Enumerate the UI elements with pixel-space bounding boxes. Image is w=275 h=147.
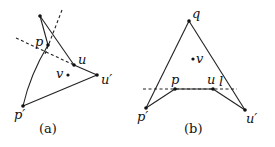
vertex-u-prime	[95, 73, 99, 77]
label-q: q	[192, 6, 200, 21]
label-u: u	[78, 52, 86, 67]
figure-a: p u u′ v p′ (a)	[14, 10, 112, 136]
label-u-prime: u′	[101, 72, 112, 87]
diagram-canvas: p u u′ v p′ (a) q v p u l p′ u′ (b)	[0, 0, 275, 147]
point-v	[66, 73, 69, 76]
label-u: u	[207, 72, 215, 87]
figure-b: q v p u l p′ u′ (b)	[137, 6, 257, 136]
dashed-line-through-p	[45, 10, 62, 54]
caption-b: (b)	[184, 121, 202, 136]
label-p: p	[35, 34, 44, 49]
label-v: v	[196, 51, 204, 66]
label-u-prime: u′	[246, 111, 257, 126]
label-p: p	[171, 72, 180, 87]
caption-a: (a)	[39, 121, 57, 136]
vertex-q	[187, 19, 191, 23]
edge-u-uprime	[213, 89, 245, 110]
label-l: l	[219, 74, 223, 89]
vertex-p	[173, 87, 177, 91]
label-v: v	[56, 66, 64, 81]
label-p-prime: p′	[14, 107, 25, 122]
label-p-prime: p′	[137, 109, 148, 124]
point-v	[191, 57, 194, 60]
vertex-top	[38, 14, 42, 18]
edge-q-pprime	[146, 21, 189, 108]
vertex-u	[72, 63, 76, 67]
vertex-p	[46, 43, 50, 47]
vertex-u	[211, 87, 215, 91]
